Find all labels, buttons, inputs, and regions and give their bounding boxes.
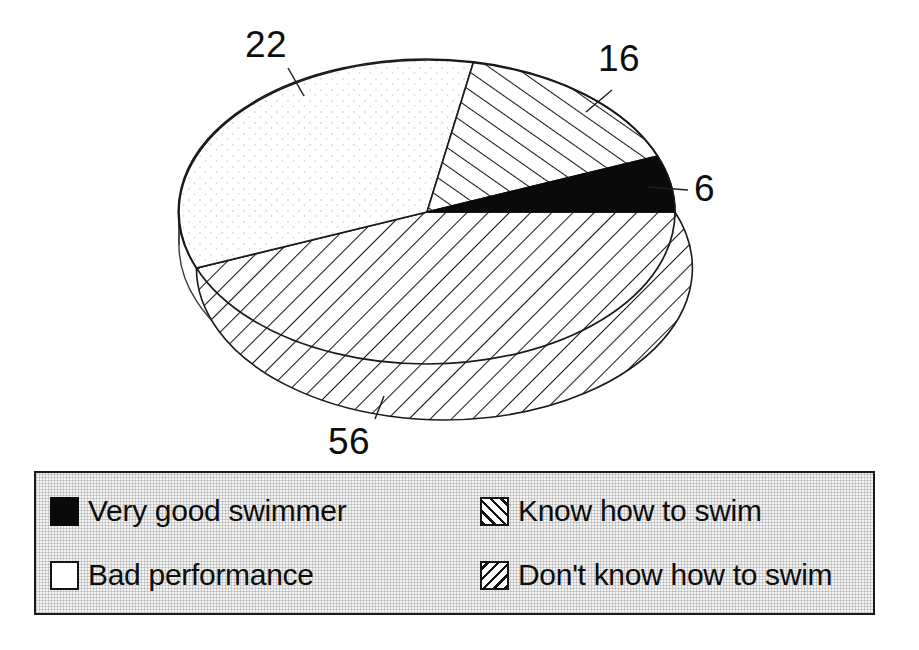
legend-label-dont-know-how-to-swim: Don't know how to swim: [518, 560, 832, 590]
legend-swatch-plain-white-icon: [50, 561, 79, 590]
legend-label-very-good-swimmer: Very good swimmer: [88, 496, 346, 526]
legend-swatch-hatch-forward-icon: [480, 497, 509, 526]
legend-item-know-how-to-swim[interactable]: Know how to swim: [480, 479, 873, 543]
legend-swatch-solid-black-icon: [50, 497, 79, 526]
legend-item-very-good-swimmer[interactable]: Very good swimmer: [50, 479, 480, 543]
slice-value-label-bad-performance: 22: [245, 26, 287, 63]
pie-svg: [0, 0, 919, 470]
slice-value-label-very-good-swimmer: 6: [694, 170, 715, 207]
slice-value-label-dont-know-how-to-swim: 56: [328, 423, 370, 460]
legend-swatch-hatch-backward-icon: [480, 561, 509, 590]
legend-label-bad-performance: Bad performance: [88, 560, 314, 590]
legend-label-know-how-to-swim: Know how to swim: [518, 496, 762, 526]
slice-value-label-know-how-to-swim: 16: [598, 40, 640, 77]
chart-legend: Very good swimmer Know how to swim Bad p…: [34, 471, 875, 615]
pie-chart-figure: 22 16 6 56 Very good swimmer Know how to…: [0, 0, 919, 650]
legend-item-bad-performance[interactable]: Bad performance: [50, 543, 480, 607]
legend-item-dont-know-how-to-swim[interactable]: Don't know how to swim: [480, 543, 873, 607]
pie-drawing-area: 22 16 6 56: [0, 0, 919, 470]
